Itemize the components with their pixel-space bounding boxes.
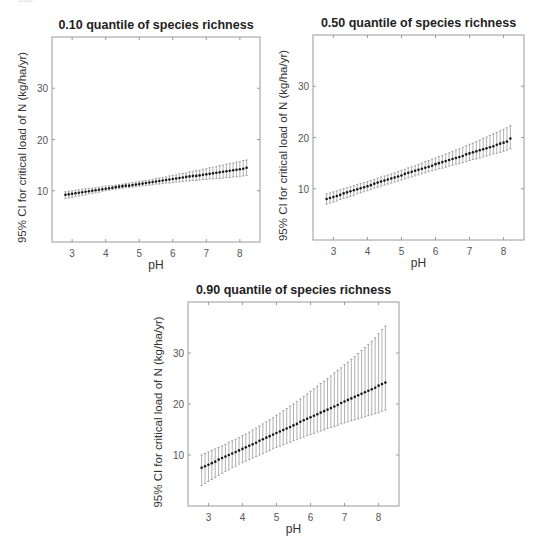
x-tick-label: 5 [274,512,280,523]
x-tick-label: 7 [467,246,473,257]
chart-panel-q090: 0.90 quantile of species richness3456781… [136,276,408,549]
x-tick-label: 6 [433,246,439,257]
y-tick-label: 20 [37,135,49,146]
estimate-points [64,166,248,196]
x-tick-label: 8 [237,248,243,259]
x-tick-label: 7 [204,248,210,259]
y-tick-label: 10 [298,184,310,195]
x-tick-label: 5 [136,248,142,259]
chart-title: 0.90 quantile of species richness [196,283,391,297]
x-tick-label: 7 [342,512,348,523]
x-tick-label: 3 [331,246,337,257]
x-tick-label: 8 [501,246,507,257]
y-tick-label: 10 [37,186,49,197]
x-axis-label: pH [148,258,163,272]
error-bar-series [64,160,248,198]
y-tick-label: 30 [298,81,310,92]
plot-frame [313,35,524,240]
x-axis-label: pH [286,522,301,536]
y-tick-label: 30 [173,348,185,359]
x-axis-label: pH [411,256,426,270]
chart-q090: 0.90 quantile of species richness3456781… [136,276,408,549]
x-tick-label: 4 [103,248,109,259]
chart-title: 0.10 quantile of species richness [58,18,253,32]
error-bar-series [200,326,386,486]
estimate-points [325,137,511,200]
y-tick-label: 20 [173,399,185,410]
y-axis-label: 95% CI for critical load of N (kg/ha/yr) [277,50,289,241]
y-tick-label: 20 [298,133,310,144]
chart-q050: 0.50 quantile of species richness3456781… [275,0,547,272]
x-tick-label: 3 [206,512,212,523]
y-axis-label: 95% CI for critical load of N (kg/ha/yr) [16,52,28,243]
y-axis-label: 95% CI for critical load of N (kg/ha/yr) [152,316,164,507]
y-tick-label: 10 [173,450,185,461]
x-tick-label: 4 [365,246,371,257]
error-bar-series [325,126,511,204]
chart-title: 0.50 quantile of species richness [321,16,516,30]
x-tick-label: 8 [376,512,382,523]
estimate-points [200,381,386,469]
x-tick-label: 3 [69,248,75,259]
y-tick-label: 30 [37,83,49,94]
chart-q010: 0.10 quantile of species richness3456781… [0,0,275,272]
chart-panel-q050: 0.50 quantile of species richness3456781… [275,0,547,272]
x-tick-label: 6 [170,248,176,259]
x-tick-label: 4 [240,512,246,523]
plot-frame [52,37,260,242]
x-tick-label: 5 [399,246,405,257]
x-tick-label: 6 [308,512,314,523]
chart-panel-q010: 0.10 quantile of species richness3456781… [0,0,275,272]
